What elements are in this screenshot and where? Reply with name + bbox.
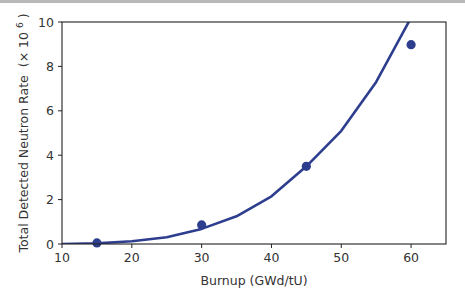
x-tick-label: 10 [54, 250, 70, 265]
y-tick-label: 4 [46, 148, 54, 163]
data-point-measured [197, 220, 206, 229]
series-line-model [62, 18, 411, 244]
x-tick-label: 60 [403, 250, 419, 265]
y-axis-label-text: Total Detected Neutron Rate [16, 75, 31, 254]
x-axis-label: Burnup (GWd/tU) [200, 273, 307, 288]
data-point-measured [406, 40, 415, 49]
x-tick-label: 30 [194, 250, 210, 265]
y-axis-label-unit-close: ) [16, 13, 31, 18]
axis-ticks: 1020304050600246810 [38, 15, 419, 266]
y-axis-label: Total Detected Neutron Rate (× 10 6 ) [11, 13, 31, 253]
x-tick-label: 50 [333, 250, 349, 265]
data-point-measured [92, 238, 101, 247]
y-tick-label: 8 [46, 59, 54, 74]
y-axis-label-unit: (× 10 [16, 32, 31, 67]
x-tick-label: 40 [264, 250, 280, 265]
y-tick-label: 2 [46, 192, 54, 207]
y-tick-label: 0 [46, 237, 54, 252]
plot-frame [62, 22, 446, 244]
data-point-measured [302, 162, 311, 171]
plot-area [62, 18, 446, 248]
chart: 1020304050600246810 Burnup (GWd/tU) Tota… [0, 0, 465, 299]
y-tick-label: 6 [46, 103, 54, 118]
y-tick-label: 10 [38, 15, 54, 30]
y-axis-label-exponent: 6 [15, 22, 25, 28]
x-tick-label: 20 [124, 250, 140, 265]
